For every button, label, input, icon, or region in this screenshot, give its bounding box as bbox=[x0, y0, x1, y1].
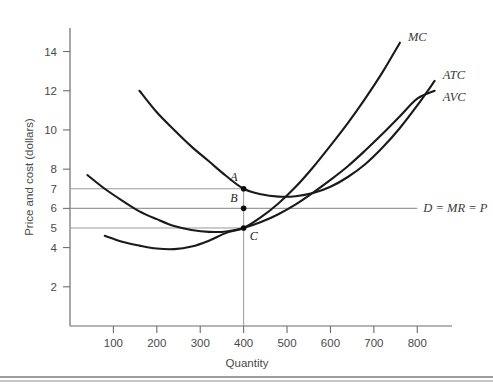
chart-svg: 14 12 10 8 6 4 2 7 5 100 200 300 bbox=[0, 0, 493, 390]
point-label-a: A bbox=[229, 170, 238, 184]
x-tick-label-400: 400 bbox=[234, 337, 253, 349]
y-tick-label-10: 10 bbox=[44, 124, 57, 136]
curve-label-mc: MC bbox=[407, 30, 427, 44]
figure-background bbox=[0, 0, 493, 390]
x-tick-label-500: 500 bbox=[277, 337, 296, 349]
point-a-dot bbox=[241, 186, 247, 192]
y-tick-label-6: 6 bbox=[51, 202, 57, 214]
y-tick-label-2: 2 bbox=[51, 281, 57, 293]
x-axis-title: Quantity bbox=[226, 357, 269, 369]
y-guide-label-5: 5 bbox=[51, 222, 57, 234]
y-axis-title: Price and cost (dollars) bbox=[23, 118, 35, 236]
curve-label-atc: ATC bbox=[442, 68, 466, 82]
y-tick-label-4: 4 bbox=[51, 242, 58, 254]
point-c-dot bbox=[241, 225, 247, 231]
x-tick-label-700: 700 bbox=[364, 337, 383, 349]
x-tick-label-800: 800 bbox=[408, 337, 427, 349]
y-tick-label-14: 14 bbox=[44, 46, 57, 58]
y-tick-label-12: 12 bbox=[44, 85, 57, 97]
point-label-b: B bbox=[230, 191, 238, 205]
y-guide-label-7: 7 bbox=[51, 183, 57, 195]
x-tick-label-100: 100 bbox=[104, 337, 123, 349]
point-label-c: C bbox=[250, 229, 259, 243]
x-tick-label-200: 200 bbox=[147, 337, 166, 349]
x-tick-label-300: 300 bbox=[191, 337, 210, 349]
curve-label-avc: AVC bbox=[442, 90, 467, 104]
curve-label-demand: D = MR = P bbox=[422, 201, 487, 215]
y-tick-label-8: 8 bbox=[51, 163, 57, 175]
economics-cost-curve-figure: 14 12 10 8 6 4 2 7 5 100 200 300 bbox=[0, 0, 493, 390]
x-tick-label-600: 600 bbox=[321, 337, 340, 349]
point-b-dot bbox=[241, 206, 247, 212]
